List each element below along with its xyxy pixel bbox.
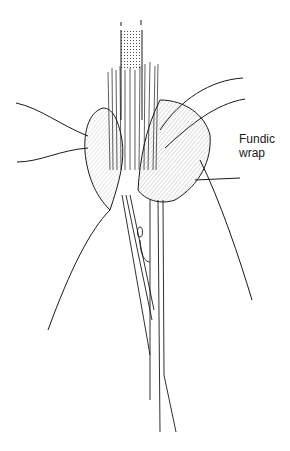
- fundic-wrap-label: Fundic wrap: [239, 132, 275, 160]
- fundoplication-illustration: [0, 0, 290, 451]
- sutures: [16, 78, 245, 180]
- label-line-2: wrap: [239, 146, 275, 160]
- label-line-1: Fundic: [239, 132, 275, 146]
- fundus-left: [85, 108, 123, 210]
- instrument-lines: [122, 195, 176, 432]
- esophagus: [121, 20, 142, 120]
